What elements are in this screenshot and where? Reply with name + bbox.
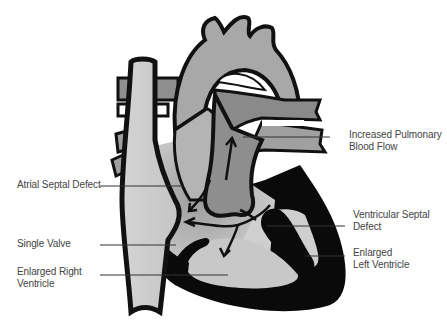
label-enlarged-left-ventricle: Enlarged Left Ventricle — [353, 247, 409, 271]
label-ventricular-septal-defect: Ventricular Septal Defect — [353, 209, 430, 233]
aortic-arch-opening — [218, 74, 265, 90]
label-single-valve: Single Valve — [17, 238, 71, 250]
label-increased-pulmonary-blood-flow: Increased Pulmonary Blood Flow — [349, 129, 442, 153]
label-atrial-septal-defect: Atrial Septal Defect — [17, 179, 101, 191]
label-enlarged-right-ventricle: Enlarged Right Ventricle — [17, 266, 82, 290]
pulmonary-gap — [262, 120, 304, 126]
heart-diagram: Increased Pulmonary Blood Flow Atrial Se… — [0, 0, 447, 332]
